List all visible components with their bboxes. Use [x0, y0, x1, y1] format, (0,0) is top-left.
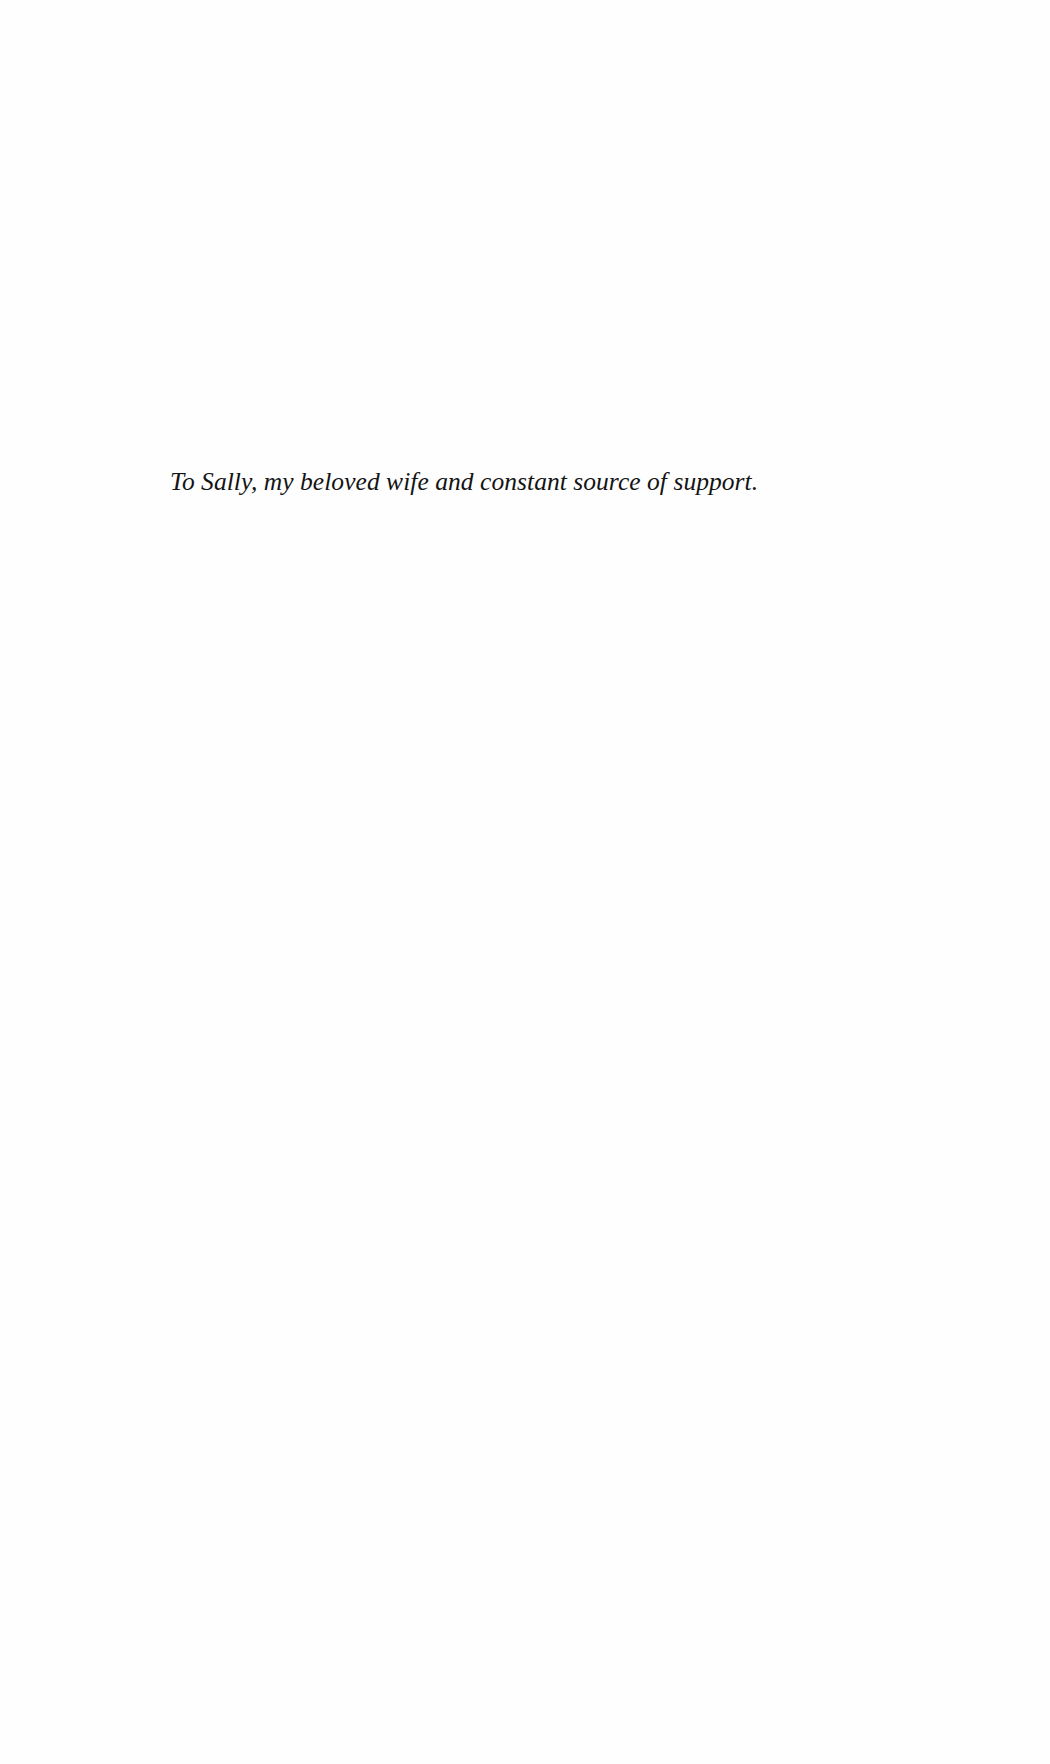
dedication-page: To Sally, my beloved wife and constant s… — [0, 0, 1050, 1764]
dedication-text: To Sally, my beloved wife and constant s… — [170, 466, 758, 498]
